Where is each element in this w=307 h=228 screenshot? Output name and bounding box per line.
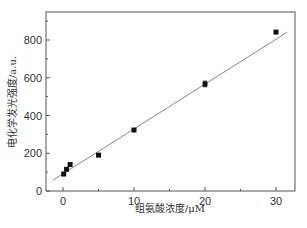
x-tick-label: 0 <box>60 195 66 207</box>
fit-line <box>53 32 287 180</box>
x-axis-title: 组氨酸浓度/μM <box>135 202 205 214</box>
data-point <box>68 162 73 167</box>
data-point <box>203 81 208 86</box>
x-tick-label: 30 <box>270 195 282 207</box>
data-point <box>61 172 66 177</box>
chart: 0200400600800 0102030 组氨酸浓度/μM 电化学发光强度/a… <box>0 0 307 228</box>
y-tick-label: 0 <box>36 185 42 197</box>
data-point <box>64 167 69 172</box>
y-axis-title: 电化学发光强度/a.u. <box>6 56 18 148</box>
y-tick-label: 800 <box>24 34 42 46</box>
data-point <box>132 128 137 133</box>
y-tick-label: 600 <box>24 72 42 84</box>
data-point <box>96 153 101 158</box>
plot-frame <box>46 12 295 191</box>
y-tick-label: 200 <box>24 147 42 159</box>
y-tick-label: 400 <box>24 110 42 122</box>
data-point <box>274 30 279 35</box>
